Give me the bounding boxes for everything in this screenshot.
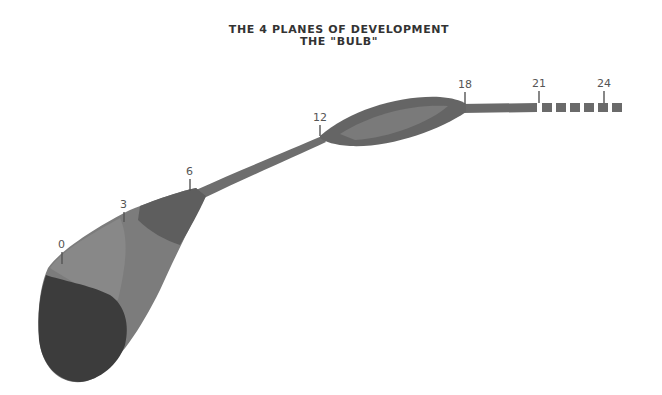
marker-0-label: 0: [58, 238, 65, 251]
marker-12-label: 12: [313, 111, 327, 124]
marker-6-label: 6: [186, 165, 193, 178]
marker-18-label: 18: [458, 78, 472, 91]
stem-18-21: [460, 103, 537, 113]
bulb-diagram: 0 3 6 12 18 21 24: [0, 0, 662, 395]
marker-3-label: 3: [120, 198, 127, 211]
marker-21-label: 21: [532, 77, 546, 90]
stem-6-12: [196, 136, 326, 198]
marker-24-label: 24: [597, 77, 611, 90]
dashed-tail-21-24: [542, 103, 622, 112]
